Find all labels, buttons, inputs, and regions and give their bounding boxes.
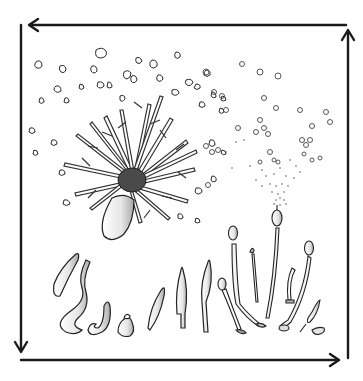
- developmental-stages: [54, 254, 212, 337]
- top-arrow-left: [29, 19, 346, 31]
- stalked-bodies: [218, 205, 325, 335]
- stage-spindle: [148, 288, 165, 330]
- spore-release: [203, 62, 333, 335]
- stage-tall-club: [202, 260, 212, 332]
- spore-dots: [225, 139, 301, 206]
- stage-elongate-slug: [54, 254, 79, 297]
- stage-hook: [88, 302, 110, 335]
- left-arrow-down: [15, 25, 27, 352]
- life-cycle-diagram: Cyclic life-cycle illustration: a branch…: [0, 0, 363, 381]
- bottom-arrow-right: [21, 354, 339, 366]
- branching-colony: [29, 48, 226, 239]
- colony-core: [118, 168, 146, 192]
- colony-base-bulb: [102, 195, 134, 239]
- spore-cloud: [203, 62, 333, 188]
- right-arrow-up: [342, 30, 354, 358]
- diagram-canvas: [0, 0, 363, 381]
- stage-capped-bulb: [118, 318, 134, 337]
- stage-club-stalk: [177, 267, 187, 328]
